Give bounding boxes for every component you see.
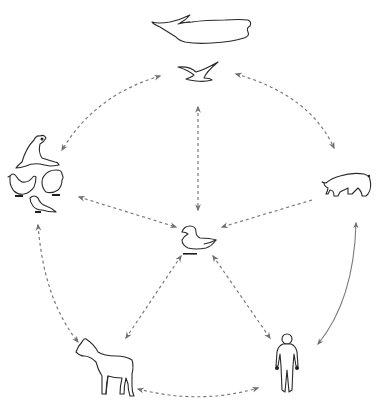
seal-icon: [16, 135, 59, 168]
pig-icon: [322, 173, 371, 196]
edge-seabird-pig: [236, 74, 334, 148]
edge-birdgroup-horse: [38, 225, 78, 342]
human-icon: [275, 334, 299, 392]
turkey-icon: [42, 170, 63, 196]
transmission-diagram: [0, 0, 380, 410]
whale-icon: [152, 15, 251, 43]
edge-pig-duck: [222, 200, 312, 227]
duck-icon: [182, 226, 216, 255]
edge-pig-human: [318, 223, 356, 344]
seabird-icon: [178, 62, 218, 81]
edge-seabird-birdgroup: [62, 76, 160, 150]
bird-group-icon: [8, 135, 63, 213]
diagram-canvas: whale seabird seal, chicken, turkey, son…: [0, 0, 380, 410]
horse-icon: [76, 339, 134, 396]
chicken-icon: [8, 174, 36, 197]
edge-horse-human: [138, 388, 258, 397]
songbird-icon: [30, 196, 56, 213]
edge-birdgroup-duck: [79, 197, 176, 227]
edge-duck-human: [213, 256, 270, 338]
edge-duck-horse: [126, 256, 181, 338]
